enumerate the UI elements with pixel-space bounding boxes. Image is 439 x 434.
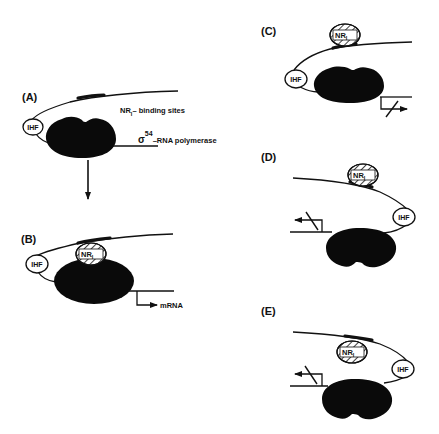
panel-label-c: (C) <box>261 25 277 37</box>
ihf-protein: IHF <box>392 360 414 378</box>
ihf-protein: IHF <box>285 70 307 88</box>
panel-label-b: (B) <box>21 233 37 245</box>
dna-strand-lower <box>38 272 56 282</box>
panel-label-a: (A) <box>22 91 38 103</box>
rna-polymerase <box>326 228 396 267</box>
nri-protein: NRI <box>348 164 378 186</box>
ihf-protein: IHF <box>26 255 48 273</box>
nri-protein: NRI <box>337 341 367 363</box>
svg-text:IHF: IHF <box>27 124 39 131</box>
svg-text:IHF: IHF <box>290 76 302 83</box>
nri-binding-site <box>345 336 372 340</box>
dna-looping-diagram: (A) IHF NRI– binding sites σ54–RNA polym… <box>0 0 439 434</box>
svg-text:IHF: IHF <box>398 214 410 221</box>
panel-c: (C) IHF NRI <box>261 24 412 117</box>
nri-binding-site <box>78 238 110 243</box>
mrna-label: mRNA <box>160 301 184 310</box>
rna-polymerase <box>322 379 392 419</box>
svg-text:IHF: IHF <box>397 366 409 373</box>
ihf-protein: IHF <box>393 208 415 226</box>
dna-strand <box>294 42 412 70</box>
rna-polymerase <box>46 117 116 158</box>
panel-b: (B) IHF NRI mRNA <box>21 233 184 310</box>
panel-label-e: (E) <box>261 305 276 317</box>
transcription-arrow-blocked <box>295 374 322 386</box>
panel-label-d: (D) <box>261 151 277 163</box>
rna-polymerase <box>314 67 384 103</box>
binding-sites-label: NRI– binding sites <box>120 106 185 117</box>
polymerase-label: σ54–RNA polymerase <box>138 130 217 145</box>
svg-text:IHF: IHF <box>31 261 43 268</box>
panel-e: (E) IHF NRI <box>261 305 414 419</box>
block-slash-icon <box>305 366 317 384</box>
nri-protein: NRI <box>76 243 106 265</box>
ihf-protein: IHF <box>23 119 43 135</box>
panel-d: (D) IHF NRI <box>261 151 415 267</box>
transcription-arrow-blocked <box>295 220 322 232</box>
panel-a: (A) IHF NRI– binding sites σ54–RNA polym… <box>22 91 217 158</box>
block-slash-icon <box>306 212 318 230</box>
nri-protein: NRI <box>330 24 360 46</box>
transcription-arrow <box>137 291 157 305</box>
